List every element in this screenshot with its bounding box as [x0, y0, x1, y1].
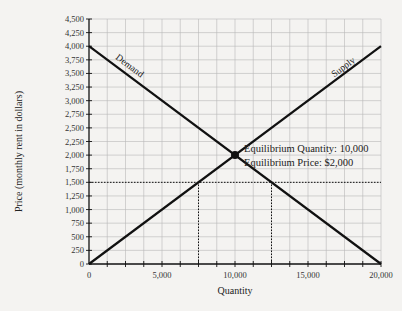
y-axis-title: Price (monthly rent in dollars): [13, 91, 25, 212]
supply-demand-chart: 02505007501,0001,2501,5001,7502,0002,250…: [0, 0, 402, 311]
equilibrium-quantity-annotation: Equilibrium Quantity: 10,000: [244, 143, 369, 154]
equilibrium-point: [231, 151, 239, 159]
x-tick-label: 10,000: [223, 270, 246, 280]
y-tick-label: 1,500: [65, 177, 84, 187]
y-tick-label: 3,000: [65, 96, 84, 106]
x-tick-label: 5,000: [152, 270, 171, 280]
y-tick-label: 0: [80, 259, 84, 269]
equilibrium-price-annotation: Equilibrium Price: $2,000: [244, 157, 353, 168]
y-tick-label: 3,750: [65, 55, 84, 65]
y-tick-label: 500: [71, 232, 84, 242]
y-tick-label: 4,250: [65, 28, 84, 38]
y-tick-label: 2,500: [65, 123, 84, 133]
y-tick-label: 1,000: [65, 205, 84, 215]
y-tick-label: 3,250: [65, 82, 84, 92]
x-tick-label: 0: [87, 270, 91, 280]
y-tick-label: 1,250: [65, 191, 84, 201]
y-tick-label: 3,500: [65, 68, 84, 78]
y-tick-label: 2,250: [65, 137, 84, 147]
y-tick-label: 750: [71, 218, 84, 228]
x-tick-label: 15,000: [296, 270, 319, 280]
y-tick-label: 2,750: [65, 109, 84, 119]
y-tick-label: 250: [71, 245, 84, 255]
y-tick-label: 4,000: [65, 41, 84, 51]
y-tick-label: 4,500: [65, 14, 84, 24]
x-tick-label: 20,000: [369, 270, 392, 280]
grid-lines: [89, 19, 381, 264]
y-tick-label: 1,750: [65, 164, 84, 174]
x-axis-title: Quantity: [218, 285, 253, 296]
y-tick-label: 2,000: [65, 150, 84, 160]
